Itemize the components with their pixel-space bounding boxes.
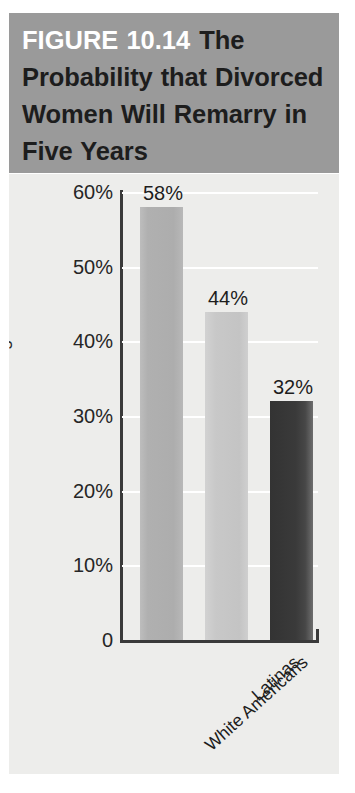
y-tick-label: 50% — [51, 255, 113, 278]
page-title: FIGURE 10.14The Probability that Divorce… — [22, 22, 329, 170]
y-tick-label: 0 — [51, 629, 113, 652]
bar-white-americans[interactable] — [140, 207, 183, 640]
bar-latinas[interactable] — [205, 312, 248, 640]
chart-panel: Percentage 60% 50% 40% 30% 20% 10% 0 58% — [9, 174, 339, 774]
figure-header-band: FIGURE 10.14The Probability that Divorce… — [9, 13, 339, 173]
y-tick-label: 60% — [51, 181, 113, 204]
y-tick-label: 20% — [51, 479, 113, 502]
bar-african-americans[interactable] — [270, 401, 313, 640]
bar-value-label-african-americans: 32% — [268, 376, 318, 399]
y-tick-label: 30% — [51, 405, 113, 428]
y-axis-tick-labels: 60% 50% 40% 30% 20% 10% 0 — [47, 192, 113, 640]
x-tick-label-african-americans: African Americans — [334, 652, 339, 762]
figure-number: FIGURE 10.14 — [22, 26, 190, 54]
y-tick-label: 10% — [51, 554, 113, 577]
plot-area: 58% 44% 32% — [122, 192, 318, 640]
bar-value-label-latinas: 44% — [203, 287, 253, 310]
x-axis-line — [120, 640, 319, 643]
y-tick-label: 40% — [51, 330, 113, 353]
bar-value-label-white-americans: 58% — [138, 182, 188, 205]
y-axis-title: Percentage — [9, 329, 13, 424]
figure-container: FIGURE 10.14The Probability that Divorce… — [0, 0, 355, 793]
